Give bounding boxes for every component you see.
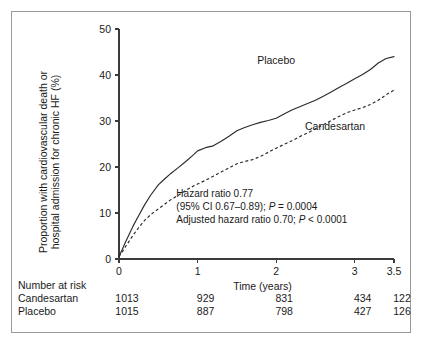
risk-value: 126: [393, 305, 411, 317]
y-tick-label: 40: [99, 69, 111, 81]
y-axis-title-line1: Proportion with cardiovascular death or: [37, 70, 49, 253]
y-axis-title-line2: hospital admission for chronic HF (%): [49, 75, 61, 249]
figure-frame: Proportion with cardiovascular death or …: [11, 11, 411, 333]
risk-value: 427: [354, 305, 372, 317]
y-tick-label: 10: [99, 207, 111, 219]
risk-value: 831: [275, 292, 293, 304]
risk-value: 798: [275, 305, 293, 317]
x-axis-ticks: 01233.5: [116, 259, 401, 277]
y-axis-title: Proportion with cardiovascular death or …: [37, 70, 61, 253]
y-tick-label: 30: [99, 115, 111, 127]
y-tick-label: 50: [99, 23, 111, 35]
x-axis-title: Time (years): [233, 280, 292, 292]
kaplan-meier-chart: Proportion with cardiovascular death or …: [12, 12, 412, 334]
chart-plot-area: Proportion with cardiovascular death or …: [12, 12, 412, 334]
risk-value: 929: [197, 292, 215, 304]
x-tick-label: 2: [273, 265, 279, 277]
annotation-text: Hazard ratio 0.77: [176, 188, 253, 199]
x-tick-label: 0: [116, 265, 122, 277]
risk-value: 1015: [115, 305, 139, 317]
risk-row-label: Candesartan: [18, 292, 78, 304]
statistics-annotation: Hazard ratio 0.77(95% CI 0.67–0.89); P =…: [176, 188, 347, 225]
annotation-text: Adjusted hazard ratio 0.70;: [176, 214, 298, 225]
curve-placebo: [119, 57, 394, 257]
annotation-line: (95% CI 0.67–0.89); P = 0.0004: [176, 201, 317, 212]
y-tick-label: 0: [105, 253, 111, 265]
risk-value: 887: [197, 305, 215, 317]
annotation-line: Adjusted hazard ratio 0.70; P < 0.0001: [176, 214, 347, 225]
y-tick-label: 20: [99, 161, 111, 173]
risk-value: 434: [354, 292, 372, 304]
annotation-text: < 0.0001: [305, 214, 347, 225]
x-tick-label: 1: [195, 265, 201, 277]
x-tick-label: 3: [352, 265, 358, 277]
x-tick-label: 3.5: [387, 265, 402, 277]
y-axis-ticks: 01020304050: [99, 23, 119, 265]
annotation-line: Hazard ratio 0.77: [176, 188, 253, 199]
number-at-risk-table: Number at riskCandesartan101392983143412…: [18, 279, 411, 317]
risk-table-heading: Number at risk: [18, 279, 87, 291]
series-label-candesartan: Candesartan: [305, 120, 365, 132]
risk-value: 122: [393, 292, 411, 304]
risk-row-label: Placebo: [18, 305, 56, 317]
annotation-text: = 0.0004: [275, 201, 317, 212]
risk-value: 1013: [115, 292, 139, 304]
series-label-placebo: Placebo: [257, 54, 295, 66]
curve-candesartan: [119, 90, 394, 257]
annotation-text: (95% CI 0.67–0.89);: [176, 201, 268, 212]
